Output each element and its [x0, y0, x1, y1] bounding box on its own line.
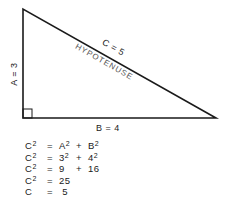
- equation-row: C2 = 32 + 42: [25, 152, 100, 164]
- equation-row: C2 = A2 + B2: [25, 140, 100, 152]
- eq-operator: [76, 175, 88, 187]
- eq-lhs-exp: 2: [32, 140, 36, 147]
- eq-lhs-exp: 2: [32, 152, 36, 159]
- pythagorean-equations: C2 = A2 + B2 C2 = 32 + 42 C2 = 9 + 16 C2…: [25, 140, 100, 198]
- eq-lhs-exp: 2: [32, 163, 36, 170]
- eq-term1: 5: [59, 186, 68, 197]
- eq-term1: A: [59, 140, 66, 151]
- side-b-label: B = 4: [96, 123, 120, 133]
- eq-lhs-exp: 2: [32, 175, 36, 182]
- eq-term2-exp: 2: [94, 152, 98, 159]
- eq-lhs: C: [25, 186, 32, 197]
- eq-term1: 9: [59, 163, 65, 174]
- eq-sign: =: [47, 163, 59, 175]
- eq-sign: =: [47, 152, 59, 164]
- eq-sign: =: [47, 186, 59, 198]
- eq-sign: =: [47, 140, 59, 152]
- triangle-outline: [23, 9, 216, 118]
- equation-row: C2 = 9 + 16: [25, 163, 100, 175]
- eq-term2: B: [88, 140, 95, 151]
- eq-operator: +: [76, 152, 88, 164]
- right-triangle-figure: A = 3 B = 4 C = 5 HYPOTENUSE: [0, 0, 229, 140]
- eq-operator: [76, 186, 88, 198]
- eq-sign: =: [47, 175, 59, 187]
- eq-operator: +: [76, 163, 88, 175]
- eq-term1-exp: 2: [65, 152, 69, 159]
- eq-term1-exp: 2: [66, 140, 70, 147]
- equation-row: C2 = 25: [25, 175, 100, 187]
- equation-row: C = 5: [25, 186, 100, 198]
- eq-term2: 16: [88, 163, 100, 174]
- eq-operator: +: [76, 140, 88, 152]
- right-angle-marker: [23, 109, 32, 118]
- side-a-label: A = 3: [9, 62, 19, 85]
- eq-term1: 25: [59, 175, 71, 186]
- eq-term2-exp: 2: [95, 140, 99, 147]
